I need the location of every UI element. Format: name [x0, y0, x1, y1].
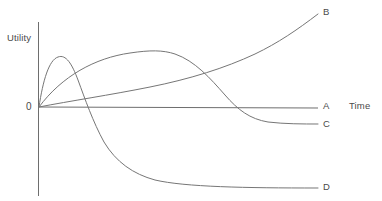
y-axis-label: Utility: [7, 33, 31, 43]
curve-series-d: [39, 56, 318, 188]
x-axis-line: [39, 107, 319, 108]
x-axis-label: Time: [349, 101, 370, 111]
utility-time-chart: Utility Time 0 B A C D: [0, 0, 382, 201]
curve-series-b: [39, 14, 318, 107]
series-label-a: A: [323, 101, 330, 111]
origin-label: 0: [26, 102, 32, 112]
series-label-c: C: [323, 119, 330, 129]
series-label-d: D: [323, 182, 330, 192]
series-label-b: B: [323, 7, 330, 17]
